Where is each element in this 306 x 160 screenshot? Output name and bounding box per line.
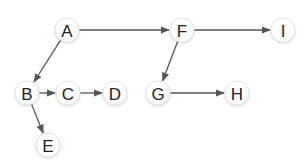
edge-a-b: [34, 40, 61, 82]
node-label: E: [42, 137, 53, 156]
edge-f-g: [163, 41, 178, 81]
node-h: H: [225, 81, 249, 105]
edge-b-e: [31, 104, 43, 133]
nodes-layer: AFIBCDGHE: [15, 18, 295, 157]
tree-diagram: AFIBCDGHE: [0, 0, 306, 160]
node-label: C: [62, 85, 74, 104]
node-label: I: [281, 22, 286, 41]
node-label: G: [151, 85, 164, 104]
node-e: E: [36, 133, 60, 157]
node-label: A: [61, 22, 73, 41]
node-b: B: [15, 81, 39, 105]
node-label: D: [109, 85, 121, 104]
node-c: C: [56, 81, 80, 105]
node-i: I: [271, 18, 295, 42]
node-a: A: [55, 18, 79, 42]
node-label: H: [231, 85, 243, 104]
node-label: B: [21, 85, 32, 104]
node-g: G: [146, 81, 170, 105]
node-label: F: [177, 22, 187, 41]
node-f: F: [170, 18, 194, 42]
node-d: D: [103, 81, 127, 105]
